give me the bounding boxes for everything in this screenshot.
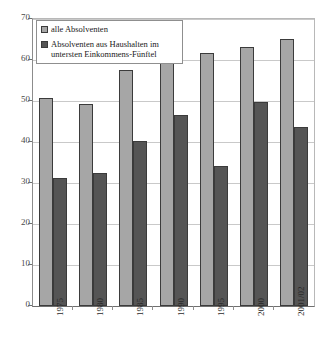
bar-1990-series2: [174, 115, 188, 306]
x-tick-label-1995: 1995: [217, 298, 226, 316]
chart-legend: alle AbsolventenAbsolventen aus Haushalt…: [36, 20, 183, 64]
y-tick-label-0: 0: [4, 300, 30, 309]
y-tick-label-30: 30: [4, 177, 30, 186]
bar-2000-series2: [254, 102, 268, 306]
y-tick-label-40: 40: [4, 136, 30, 145]
bar-1980-series2: [93, 173, 107, 306]
x-tick-label-1985: 1985: [136, 298, 145, 316]
bar-1975-series1: [39, 98, 53, 306]
legend-label-2: Absolventen aus Haushalten im untersten …: [51, 39, 178, 59]
bar-1995-series1: [200, 53, 214, 306]
x-tick-mark-2: [112, 306, 113, 310]
bar-chart: 010203040506070 197519801985199019952000…: [0, 0, 327, 364]
x-axis: 1975198019851990199520002001/02: [32, 306, 314, 364]
y-tick-label-60: 60: [4, 54, 30, 63]
bar-1985-series1: [119, 70, 133, 306]
bar-1990-series1: [160, 60, 174, 306]
y-tick-label-20: 20: [4, 218, 30, 227]
bar-1975-series2: [53, 178, 67, 306]
legend-swatch-icon-1: [41, 26, 48, 33]
y-tick-label-10: 10: [4, 259, 30, 268]
bar-2001-02-series1: [280, 39, 294, 306]
bar-2001-02-series2: [294, 127, 308, 306]
x-tick-mark-1: [72, 306, 73, 310]
x-tick-label-1980: 1980: [96, 298, 105, 316]
x-tick-label-1990: 1990: [177, 298, 186, 316]
legend-label-1: alle Absolventen: [51, 24, 108, 34]
bar-1980-series1: [79, 104, 93, 306]
x-tick-label-2001-02: 2001/02: [297, 286, 306, 316]
bar-2000-series1: [240, 47, 254, 306]
legend-entry-1: alle Absolventen: [41, 24, 178, 34]
bar-1995-series2: [214, 166, 228, 306]
x-tick-label-2000: 2000: [257, 298, 266, 316]
x-tick-mark-4: [193, 306, 194, 310]
x-tick-label-1975: 1975: [56, 298, 65, 316]
x-tick-mark-6: [273, 306, 274, 310]
legend-entry-2: Absolventen aus Haushalten im untersten …: [41, 39, 178, 59]
bar-1985-series2: [133, 141, 147, 306]
y-tick-label-70: 70: [4, 13, 30, 22]
x-tick-mark-3: [152, 306, 153, 310]
y-axis: 010203040506070: [0, 0, 30, 364]
legend-swatch-icon-2: [41, 41, 48, 48]
gridline-50: [33, 101, 314, 102]
y-tick-label-50: 50: [4, 95, 30, 104]
x-tick-mark-5: [233, 306, 234, 310]
